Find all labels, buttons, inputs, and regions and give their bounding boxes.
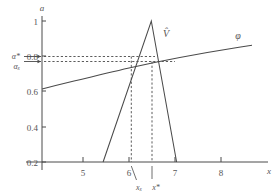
v-hat-triangle (103, 21, 177, 162)
alpha-star-label: α* (12, 52, 20, 61)
axis-lines (26, 16, 268, 170)
x-axis-label: x (266, 166, 271, 176)
alpha-sub-star-label: αₓ (14, 62, 20, 71)
y-tick-marks (42, 21, 46, 162)
x-tick-label-5: 5 (81, 168, 86, 178)
phi-label: φ (235, 30, 241, 41)
v-hat-label: V̂ (163, 27, 171, 39)
y-tick-label-0-2: 0.2 (27, 158, 38, 168)
x-guide-lines (131, 57, 152, 163)
chart-svg: 1 0.8 0.6 0.4 0.2 5 6 7 8 a x α* (0, 0, 276, 193)
phi-curve (42, 45, 252, 89)
y-tick-label-0-8: 0.8 (27, 52, 39, 62)
v-hat-path (103, 21, 177, 162)
x-sub-star-leader (131, 166, 136, 180)
x-tick-label-7: 7 (173, 168, 178, 178)
alpha-sub-star-arrow-head (38, 60, 42, 63)
x-point-leaders (131, 166, 152, 180)
alpha-guide-lines (44, 57, 175, 62)
alpha-star-arrow-head (38, 55, 42, 58)
y-tick-label-1: 1 (34, 17, 39, 27)
y-tick-label-0-6: 0.6 (27, 87, 39, 97)
x-sub-star-label: xₓ (135, 183, 142, 192)
y-tick-label-0-4: 0.4 (27, 123, 39, 133)
x-tick-label-6: 6 (127, 168, 132, 178)
figure-canvas: 1 0.8 0.6 0.4 0.2 5 6 7 8 a x α* (0, 0, 276, 193)
x-star-label: x* (151, 183, 160, 192)
y-tick-labels: 1 0.8 0.6 0.4 0.2 (27, 17, 39, 168)
x-tick-label-8: 8 (219, 168, 224, 178)
y-axis-label: a (40, 3, 45, 13)
